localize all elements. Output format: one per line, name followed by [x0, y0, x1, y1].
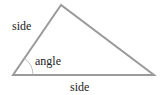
triangle-diagram: side angle side — [0, 0, 165, 95]
left-side-label: side — [12, 19, 31, 33]
bottom-side-label: side — [70, 80, 89, 94]
angle-arc — [25, 59, 34, 76]
angle-label: angle — [35, 54, 61, 68]
